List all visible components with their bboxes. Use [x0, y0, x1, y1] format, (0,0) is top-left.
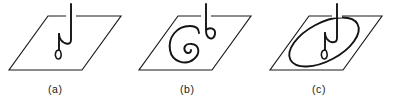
strand-small-loop-c	[321, 50, 327, 59]
panel-b: (b)	[139, 4, 251, 95]
panel-label-c: (c)	[312, 83, 326, 95]
panel-a: (a)	[9, 4, 121, 95]
figure-container: (a) (b) (c)	[0, 0, 394, 100]
panel-c: (c)	[270, 4, 382, 95]
strand-connector-b	[190, 26, 199, 33]
panel-label-b: (b)	[180, 83, 195, 95]
strand-main-a	[59, 4, 71, 44]
strand-main-c	[325, 4, 337, 42]
strand-small-loop-b	[206, 4, 215, 39]
strand-small-loop-a	[55, 50, 61, 59]
strand-large-loop-b	[170, 26, 199, 62]
figure-illustration: (a) (b) (c)	[0, 0, 394, 100]
strand-large-ellipse-c	[282, 7, 367, 76]
plane-parallelogram-b	[139, 16, 251, 70]
panel-label-a: (a)	[48, 83, 63, 95]
